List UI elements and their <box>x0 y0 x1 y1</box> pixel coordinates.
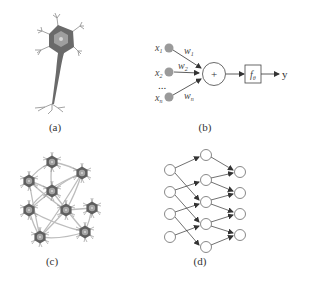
ann-node <box>201 150 212 161</box>
biological-neuron-figure <box>35 13 84 114</box>
hidden-layer <box>201 150 212 253</box>
input-node-n <box>165 93 174 102</box>
artificial-network-figure <box>165 150 246 253</box>
ann-node <box>235 188 246 199</box>
ann-node <box>235 230 246 241</box>
output-layer <box>235 167 246 241</box>
input-label-xn: xn <box>154 92 162 104</box>
sum-symbol: + <box>211 68 217 80</box>
ann-node <box>201 242 212 253</box>
artificial-neuron-figure: x1 x2 xn ... w1 w2 wn + fθ y <box>154 42 288 104</box>
panel-label-b: (b) <box>199 121 212 134</box>
weight-edge-2 <box>174 72 199 73</box>
input-label-x2: x2 <box>154 67 162 79</box>
input-label-x1: x1 <box>154 42 162 54</box>
ann-node <box>201 175 212 186</box>
panel-label-d: (d) <box>194 255 207 268</box>
output-label: y <box>282 68 288 80</box>
axon-terminals <box>35 104 65 114</box>
ann-node <box>235 167 246 178</box>
weight-label-w1: w1 <box>184 45 194 57</box>
network-neuron <box>20 171 38 191</box>
ann-node <box>165 209 176 220</box>
biological-network-figure <box>20 152 101 247</box>
ellipsis: ... <box>158 79 167 91</box>
axon <box>52 53 64 104</box>
ann-node <box>165 165 176 176</box>
ann-node <box>165 232 176 243</box>
weight-label-w2: w2 <box>178 60 188 72</box>
input-node-1 <box>165 44 174 53</box>
panel-label-c: (c) <box>46 255 59 268</box>
panel-label-a: (a) <box>49 121 62 134</box>
nucleus <box>59 37 63 41</box>
network-neuron <box>73 163 91 183</box>
weight-label-wn: wn <box>184 90 194 102</box>
ann-node <box>235 209 246 220</box>
ann-node <box>165 187 176 198</box>
ann-node <box>201 219 212 230</box>
input-layer <box>165 165 176 243</box>
ann-node <box>201 197 212 208</box>
input-node-2 <box>165 68 174 77</box>
network-neuron <box>43 152 61 172</box>
